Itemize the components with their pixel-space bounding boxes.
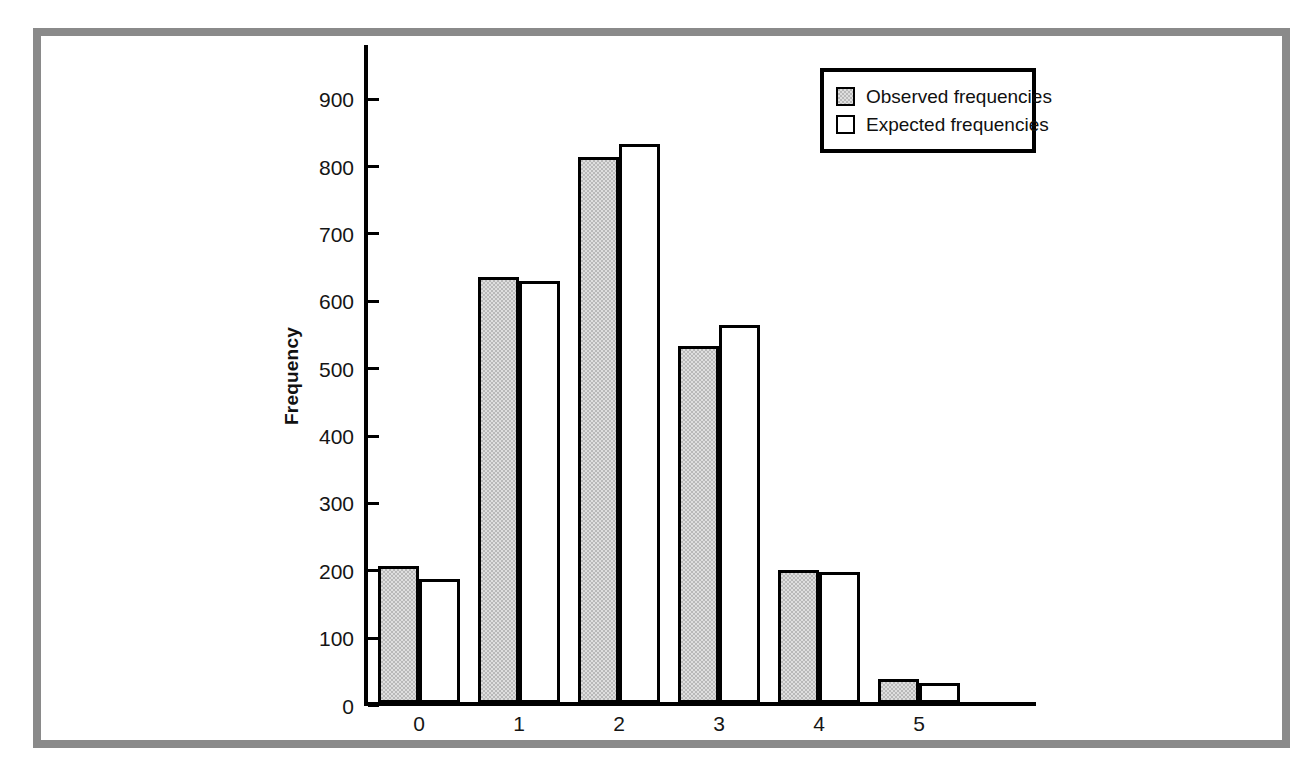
y-axis-tick-label: 500 xyxy=(319,358,354,379)
y-axis-line xyxy=(364,45,368,706)
y-axis-tick: 700 xyxy=(368,232,379,235)
x-axis-tick-label: 1 xyxy=(513,713,525,734)
legend-label-observed: Observed frequencies xyxy=(866,87,1052,106)
x-axis-tick-label: 5 xyxy=(913,713,925,734)
y-axis-tick: 800 xyxy=(368,165,379,168)
bar-observed-3 xyxy=(678,346,719,703)
y-axis-tick-label: 600 xyxy=(319,291,354,312)
y-axis-tick-label: 0 xyxy=(342,695,354,716)
y-axis-tick: 0 xyxy=(368,704,379,707)
y-axis-tick: 400 xyxy=(368,435,379,438)
bar-expected-5 xyxy=(919,683,960,703)
legend-item-observed: Observed frequencies xyxy=(836,82,1020,110)
y-axis-tick-label: 400 xyxy=(319,426,354,447)
y-axis-tick: 600 xyxy=(368,300,379,303)
x-axis-tick-label: 0 xyxy=(413,713,425,734)
y-axis-tick-label: 300 xyxy=(319,493,354,514)
bar-expected-3 xyxy=(719,325,760,703)
bar-observed-4 xyxy=(778,570,819,703)
y-axis-title: Frequency xyxy=(281,327,303,425)
y-axis-tick-label: 100 xyxy=(319,628,354,649)
legend-item-expected: Expected frequencies xyxy=(836,110,1020,138)
bar-expected-0 xyxy=(419,579,460,703)
bar-observed-0 xyxy=(378,566,419,703)
x-axis-tick-label: 3 xyxy=(713,713,725,734)
y-axis-tick-label: 800 xyxy=(319,156,354,177)
bar-expected-4 xyxy=(819,572,860,703)
observed-swatch-icon xyxy=(836,87,855,106)
x-axis-tick-label: 4 xyxy=(813,713,825,734)
expected-swatch-icon xyxy=(836,115,855,134)
bar-expected-1 xyxy=(519,281,560,703)
x-axis-tick-label: 2 xyxy=(613,713,625,734)
legend-label-expected: Expected frequencies xyxy=(866,115,1049,134)
chart-legend: Observed frequencies Expected frequencie… xyxy=(820,68,1036,153)
y-axis-tick: 500 xyxy=(368,367,379,370)
bar-observed-5 xyxy=(878,679,919,703)
figure-canvas: 0100200300400500600700800900 012345 Freq… xyxy=(0,0,1316,781)
y-axis-tick-label: 900 xyxy=(319,89,354,110)
y-axis-tick: 300 xyxy=(368,502,379,505)
y-axis-tick-label: 200 xyxy=(319,560,354,581)
y-axis-tick: 900 xyxy=(368,98,379,101)
y-axis-tick-label: 700 xyxy=(319,223,354,244)
bar-expected-2 xyxy=(619,144,660,703)
bar-observed-1 xyxy=(478,277,519,703)
bar-observed-2 xyxy=(578,157,619,703)
